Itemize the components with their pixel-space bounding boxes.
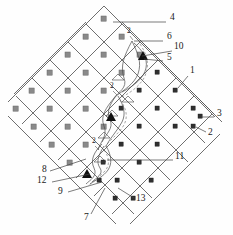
ref-label-13: 13 — [136, 194, 146, 204]
ref-label-8: 8 — [42, 165, 47, 175]
ref-label-11: 11 — [175, 152, 184, 162]
annotation-ticks — [95, 36, 133, 150]
leader-lines — [50, 22, 214, 214]
ref-label-10: 10 — [174, 42, 184, 52]
ref-label-5: 5 — [167, 53, 172, 63]
lattice-diagram-svg — [0, 0, 233, 235]
figure-container: 4 6 10 5 1 3 2 11 8 12 9 7 13 2 2 2 — [0, 0, 233, 235]
annotation-2-lower: 2 — [92, 137, 96, 145]
ref-label-3: 3 — [217, 109, 222, 119]
ref-label-1: 1 — [190, 66, 195, 76]
lattice-grid — [8, 6, 222, 224]
annotation-2-top: 2 — [127, 27, 131, 35]
ref-label-2: 2 — [208, 128, 213, 138]
ref-label-7: 7 — [84, 213, 89, 223]
ref-label-4: 4 — [170, 13, 175, 23]
ref-label-6: 6 — [167, 32, 172, 42]
ref-label-12: 12 — [37, 176, 47, 186]
annotation-2-middle: 2 — [110, 82, 114, 90]
filled-triangle-markers — [82, 51, 148, 178]
ref-label-9: 9 — [58, 187, 63, 197]
